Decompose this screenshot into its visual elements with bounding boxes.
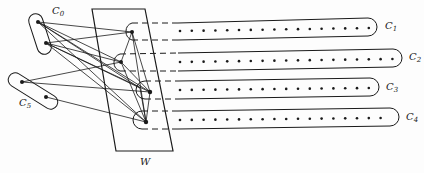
diagram-canvas: C0 C5 C1 C2 C3 C4 W bbox=[0, 0, 424, 173]
label-c0: C0 bbox=[52, 5, 65, 18]
c3-capsule bbox=[136, 78, 379, 99]
label-c1: C1 bbox=[385, 20, 397, 33]
edges bbox=[22, 22, 150, 122]
c4-capsule bbox=[133, 108, 399, 129]
c0-capsule bbox=[27, 12, 53, 56]
label-c3: C3 bbox=[386, 81, 399, 94]
label-w: W bbox=[140, 156, 151, 167]
label-c5: C5 bbox=[19, 97, 32, 110]
c5-capsule bbox=[6, 70, 61, 112]
label-c2: C2 bbox=[409, 51, 422, 64]
capsule-dots bbox=[179, 27, 394, 122]
label-c4: C4 bbox=[406, 111, 418, 124]
